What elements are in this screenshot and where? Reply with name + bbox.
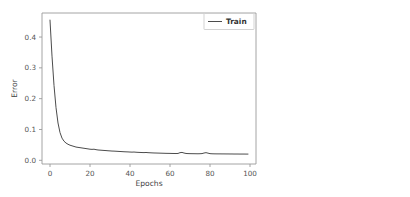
y-tick-label: 0.3 (25, 63, 36, 72)
x-axis-title: Epochs (135, 179, 162, 188)
plot-area-background (42, 13, 256, 164)
chart-legend[interactable]: Train (204, 14, 254, 30)
y-axis-title: Error (10, 78, 19, 97)
x-tick-label: 0 (48, 169, 53, 178)
x-tick-label: 60 (165, 169, 175, 178)
figure-canvas: 020406080100 0.00.10.20.30.4 Epochs Erro… (0, 0, 410, 197)
x-tick-label: 100 (243, 169, 257, 178)
x-tick-label: 20 (85, 169, 95, 178)
y-tick-label: 0.2 (25, 94, 36, 103)
y-tick-label: 0.1 (25, 125, 36, 134)
x-tick-label: 40 (125, 169, 135, 178)
training-error-line-chart: 020406080100 0.00.10.20.30.4 Epochs Erro… (0, 0, 410, 197)
x-tick-label: 80 (205, 169, 215, 178)
legend-label-train: Train (226, 17, 247, 26)
y-tick-label: 0.0 (25, 156, 37, 165)
y-tick-label: 0.4 (25, 33, 37, 42)
